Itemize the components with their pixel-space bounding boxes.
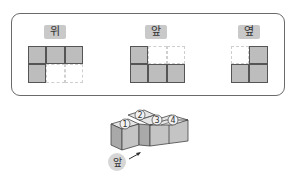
- arrow-icon: [129, 152, 141, 159]
- svg-text:2: 2: [137, 111, 142, 120]
- svg-text:3: 3: [154, 116, 159, 125]
- circled-number-3: 3: [152, 115, 162, 125]
- svg-text:앞: 앞: [113, 157, 122, 168]
- front-direction-label: 앞: [108, 153, 126, 171]
- circled-number-1: 1: [120, 119, 130, 129]
- svg-text:1: 1: [122, 120, 127, 129]
- svg-text:4: 4: [170, 116, 175, 125]
- circled-number-4: 4: [168, 115, 178, 125]
- isometric-cube-figure: 1 2 3 4 앞: [0, 0, 297, 176]
- circled-number-2: 2: [135, 110, 145, 120]
